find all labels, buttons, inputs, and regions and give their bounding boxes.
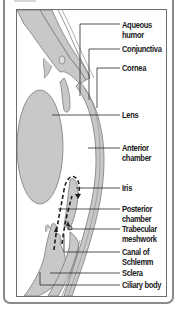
label-aqueous-humor: Aqueous humor [122, 20, 152, 40]
label-line: Trabecular [122, 224, 157, 234]
label-trabecular-meshwork: Trabecular meshwork [122, 224, 157, 244]
iris [64, 179, 78, 228]
leader-aqueous-humor [80, 24, 120, 96]
label-line: Lens [122, 110, 138, 120]
label-lens: Lens [122, 110, 138, 120]
leader-cornea [97, 68, 120, 108]
label-line: Ciliary body [122, 280, 161, 290]
label-line: Posterior [122, 204, 152, 214]
label-line: Anterior [122, 143, 151, 153]
label-conjunctiva: Conjunctiva [122, 44, 162, 54]
label-posterior-chamber: Posterior chamber [122, 204, 152, 224]
label-line: Aqueous [122, 20, 152, 30]
label-line: chamber [122, 153, 151, 163]
label-line: Canal of [122, 247, 153, 257]
label-line: meshwork [122, 234, 157, 244]
label-sclera: Sclera [122, 268, 143, 278]
leader-conjunctiva [89, 49, 120, 100]
label-line: Cornea [122, 63, 146, 73]
label-ciliary-body: Ciliary body [122, 280, 161, 290]
label-iris: Iris [122, 183, 132, 193]
upper-ciliary-fold [60, 78, 70, 112]
label-cornea: Cornea [122, 63, 146, 73]
lens [17, 90, 63, 204]
label-line: Sclera [122, 268, 143, 278]
label-line: Schlemm [122, 257, 153, 267]
label-line: Iris [122, 183, 132, 193]
label-line: Conjunctiva [122, 44, 162, 54]
label-anterior-chamber: Anterior chamber [122, 143, 151, 163]
label-canal-of-schlemm: Canal of Schlemm [122, 247, 153, 267]
label-line: humor [122, 30, 152, 40]
label-line: chamber [122, 214, 152, 224]
